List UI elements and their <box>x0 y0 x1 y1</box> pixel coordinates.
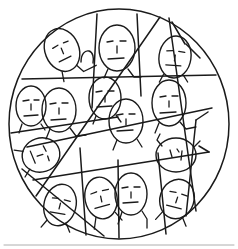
mouth <box>167 204 182 210</box>
nose <box>59 203 60 209</box>
mouth <box>117 130 133 131</box>
person-top-right <box>155 34 193 86</box>
person-left-lower <box>13 133 64 179</box>
chord-top-right-vertical <box>137 14 141 96</box>
shoulders <box>156 210 189 229</box>
mouth <box>24 115 38 116</box>
right-eye <box>177 149 179 152</box>
left-eye <box>122 187 128 188</box>
left-eye <box>91 192 97 194</box>
mouth <box>160 112 176 113</box>
person-left-mid <box>42 88 86 139</box>
head-oval <box>81 51 93 63</box>
mouth <box>30 151 35 164</box>
left-eye <box>96 91 102 92</box>
left-eye <box>170 150 172 157</box>
person-center <box>109 99 143 150</box>
nose <box>101 196 102 202</box>
mouth <box>166 64 181 67</box>
left-eye <box>23 100 29 101</box>
chord-bottom-vertical-b <box>118 160 119 238</box>
people-group <box>13 20 200 234</box>
chord-top-right-short <box>172 22 185 44</box>
person-right-upper <box>152 80 196 133</box>
nose <box>37 154 43 156</box>
left-eye <box>50 103 56 104</box>
right-eye <box>102 189 108 190</box>
mouth <box>97 106 112 107</box>
chord-upper-right-wedge <box>186 44 200 58</box>
nose <box>174 55 175 61</box>
chord-right-notch-b <box>199 146 209 152</box>
person-bottom-center <box>115 173 147 228</box>
person-top-left <box>38 20 97 84</box>
mouth <box>51 119 66 120</box>
right-eye <box>64 200 70 201</box>
right-eye <box>182 194 188 196</box>
nose <box>61 48 63 54</box>
sketch-canvas <box>0 0 238 249</box>
left-eye <box>167 50 173 52</box>
left-eye <box>170 191 176 194</box>
left-eye <box>52 45 58 48</box>
shoulders <box>113 139 142 150</box>
left-eye <box>117 114 123 115</box>
circle-of-faces-drawing <box>0 0 238 249</box>
chord-right-notch-a <box>196 112 208 120</box>
mouth <box>108 58 124 59</box>
nose <box>181 151 182 160</box>
person-upper-mid-left <box>81 51 93 63</box>
left-eye <box>107 41 113 42</box>
nose <box>176 197 178 203</box>
mouth <box>123 202 138 203</box>
left-eye <box>160 96 166 97</box>
left-eye <box>43 146 46 152</box>
mouth <box>59 56 71 62</box>
right-eye <box>63 41 68 43</box>
person-top-center <box>99 25 141 78</box>
right-eye <box>48 156 50 161</box>
right-eye <box>179 51 185 52</box>
mouth <box>95 204 110 208</box>
